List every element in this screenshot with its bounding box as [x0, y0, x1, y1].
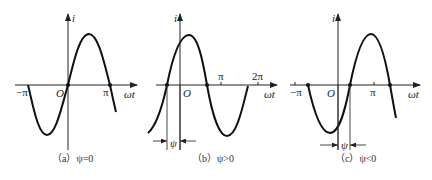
psi-label: ψ — [341, 139, 348, 151]
x-axis-label: ωt — [408, 88, 420, 100]
origin-label: O — [327, 87, 335, 99]
panel-c: i ωt O −π π ψ （c）ψ<0 — [290, 12, 420, 164]
tick-label-pi: π — [218, 70, 224, 82]
x-axis-label: ωt — [124, 88, 136, 100]
tick-label-2pi: 2π — [252, 70, 264, 82]
caption: （b）ψ>0 — [192, 153, 234, 164]
tick-label-neg-pi: −π — [290, 86, 302, 98]
zero-point — [205, 83, 209, 87]
sine-curve — [308, 34, 396, 133]
sinusoid-phase-diagrams: i ωt O −π π （a）ψ=0 i ωt O π 2π ψ （b）ψ>0 — [0, 0, 432, 180]
caption: （a）ψ=0 — [52, 153, 93, 164]
tick-label-pi: π — [103, 86, 109, 98]
caption: （c）ψ<0 — [335, 153, 376, 164]
tick-label-pi: π — [370, 86, 376, 98]
y-axis-label: i — [72, 12, 75, 24]
zero-point — [388, 83, 392, 87]
zero-point — [306, 83, 310, 87]
y-axis-label: i — [174, 12, 177, 24]
origin-label: O — [56, 87, 64, 99]
x-axis-label: ωt — [264, 88, 276, 100]
origin-label: O — [183, 87, 191, 99]
tick-label-neg-pi: −π — [16, 86, 28, 98]
y-axis-label: i — [332, 12, 335, 24]
panel-b: i ωt O π 2π ψ （b）ψ>0 — [148, 12, 277, 164]
panel-a: i ωt O −π π （a）ψ=0 — [15, 12, 137, 164]
zero-point — [108, 83, 112, 87]
zero-point — [66, 83, 70, 87]
psi-label: ψ — [170, 137, 177, 149]
